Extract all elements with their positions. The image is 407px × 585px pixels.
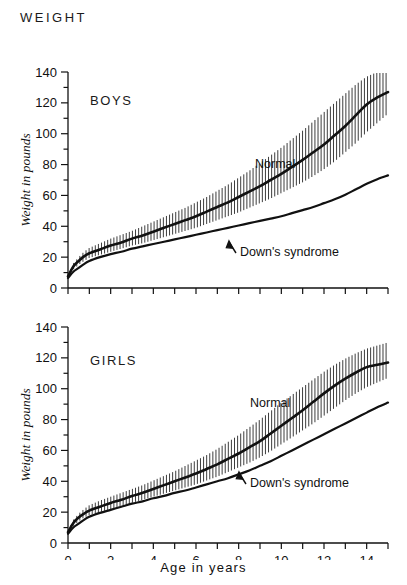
x-tick-label: 10 xyxy=(274,553,288,560)
x-tick-label: 2 xyxy=(107,553,114,560)
y-tick-label: 60 xyxy=(43,188,57,203)
boys-y-tick-labels: 020406080100120140 xyxy=(35,65,57,296)
girls-y-tick-labels: 020406080100120140 xyxy=(35,320,57,551)
chart-panel-girls: 020406080100120140 02468101214 Weight in… xyxy=(0,310,407,555)
y-tick-label: 100 xyxy=(35,126,57,141)
y-tick-label: 60 xyxy=(43,443,57,458)
boys-panel-label: BOYS xyxy=(90,93,133,108)
y-tick-label: 0 xyxy=(50,281,57,296)
girls-chart-svg: 020406080100120140 02468101214 Weight in… xyxy=(0,310,407,560)
y-tick-label: 0 xyxy=(50,536,57,551)
boys-y-ticks xyxy=(61,72,68,288)
y-tick-label: 120 xyxy=(35,350,57,365)
y-tick-label: 40 xyxy=(43,219,57,234)
y-tick-label: 20 xyxy=(43,505,57,520)
boys-y-axis-title: Weight in pounds xyxy=(18,133,33,226)
chart-panel-boys: 020406080100120140 Weight in pounds BOYS… xyxy=(0,55,407,305)
boys-normal-label: Normal xyxy=(255,157,295,171)
y-tick-label: 80 xyxy=(43,412,57,427)
y-tick-label: 100 xyxy=(35,381,57,396)
girls-downs-label: Down's syndrome xyxy=(250,476,349,490)
y-tick-label: 40 xyxy=(43,474,57,489)
y-tick-label: 140 xyxy=(35,65,57,80)
girls-normal-label: Normal xyxy=(250,396,290,410)
girls-x-tick-labels: 02468101214 xyxy=(64,553,374,560)
boys-downs-label: Down's syndrome xyxy=(240,245,339,259)
x-axis-title: Age in years xyxy=(0,560,407,575)
boys-downs-arrow-icon xyxy=(226,241,236,253)
x-tick-label: 6 xyxy=(192,553,199,560)
girls-y-ticks xyxy=(61,327,68,543)
boys-x-ticks xyxy=(68,288,388,294)
x-tick-label: 8 xyxy=(235,553,242,560)
y-tick-label: 120 xyxy=(35,95,57,110)
y-tick-label: 20 xyxy=(43,250,57,265)
girls-panel-label: GIRLS xyxy=(90,353,137,368)
x-tick-label: 4 xyxy=(150,553,157,560)
girls-y-axis-title: Weight in pounds xyxy=(18,388,33,481)
girls-x-ticks xyxy=(68,543,388,549)
x-tick-label: 14 xyxy=(359,553,373,560)
boys-chart-svg: 020406080100120140 Weight in pounds BOYS… xyxy=(0,55,407,305)
y-tick-label: 80 xyxy=(43,157,57,172)
y-tick-label: 140 xyxy=(35,320,57,335)
x-tick-label: 12 xyxy=(317,553,331,560)
x-tick-label: 0 xyxy=(64,553,71,560)
page-title: WEIGHT xyxy=(20,10,87,25)
